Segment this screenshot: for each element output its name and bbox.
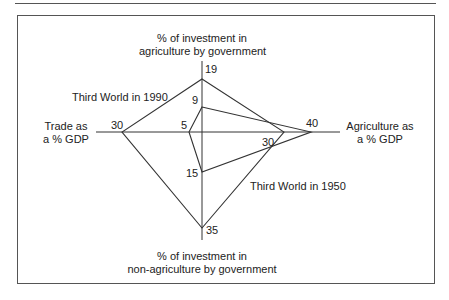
axis-label-left: Trade as a % GDP bbox=[40, 120, 92, 146]
axis-label-right: Agriculture as a % GDP bbox=[340, 120, 420, 146]
axis-label-top-line2: agriculture by government bbox=[139, 45, 265, 58]
axis-label-right-line1: Agriculture as bbox=[340, 120, 420, 133]
tick-bottom-outer: 35 bbox=[206, 224, 218, 236]
tick-left-inner: 5 bbox=[181, 119, 187, 131]
axis-label-left-line1: Trade as bbox=[40, 120, 92, 133]
series-1950-polygon bbox=[189, 107, 311, 172]
tick-right-inner: 30 bbox=[262, 136, 274, 148]
axis-label-bottom-line1: % of investment in bbox=[120, 250, 284, 263]
axis-label-top: % of investment in agriculture by govern… bbox=[139, 32, 265, 58]
axis-label-right-line2: a % GDP bbox=[340, 133, 420, 146]
tick-top-inner: 9 bbox=[192, 94, 198, 106]
axis-label-top-line1: % of investment in bbox=[139, 32, 265, 45]
series-label-1950: Third World in 1950 bbox=[250, 180, 346, 193]
tick-left-outer: 30 bbox=[111, 119, 123, 131]
tick-bottom-inner: 15 bbox=[186, 167, 198, 179]
axis-label-bottom: % of investment in non-agriculture by go… bbox=[120, 250, 284, 276]
axis-label-bottom-line2: non-agriculture by government bbox=[120, 263, 284, 276]
series-label-1990: Third World in 1990 bbox=[72, 91, 168, 104]
tick-top-outer: 19 bbox=[205, 63, 217, 75]
axis-label-left-line2: a % GDP bbox=[40, 133, 92, 146]
tick-right-outer: 40 bbox=[306, 117, 318, 129]
